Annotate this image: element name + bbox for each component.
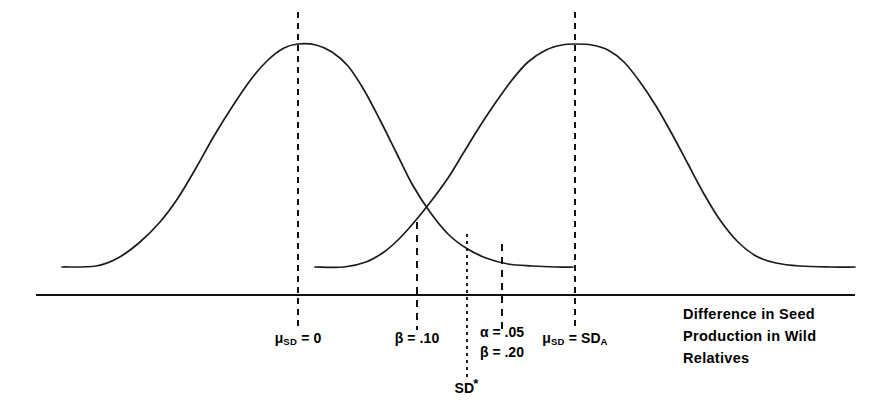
alpha-beta-label-group: α = .05 β = .20 <box>480 322 524 362</box>
x-axis-caption: Difference in Seed Production in Wild Re… <box>683 303 873 369</box>
mu-alt-label: μSD = SDA <box>542 330 608 346</box>
statistical-power-figure: μSD = 0 β = .10 α = .05 β = .20 μSD = SD… <box>0 0 879 414</box>
caption-line-2: Production in Wild <box>683 325 873 347</box>
beta-20-label: β = .20 <box>480 342 524 362</box>
null-distribution-curve <box>62 44 573 267</box>
mu-null-label: μSD = 0 <box>275 330 322 346</box>
caption-line-1: Difference in Seed <box>683 303 873 325</box>
caption-line-3: Relatives <box>683 347 873 369</box>
alternative-distribution-curve <box>315 44 855 267</box>
beta-10-label: β = .10 <box>395 330 440 346</box>
sd-critical-label: SD* <box>455 375 480 396</box>
alpha-05-label: α = .05 <box>480 322 524 342</box>
